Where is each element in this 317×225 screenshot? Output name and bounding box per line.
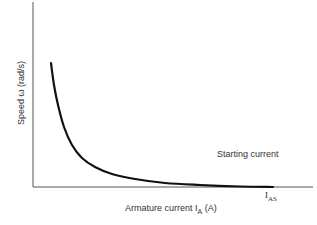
x-axis-label-unit: (A): [202, 203, 217, 213]
x-axis-label: Armature current IA (A): [125, 203, 217, 215]
starting-current-annotation: Starting current: [217, 149, 279, 159]
speed-current-curve: [51, 63, 273, 187]
y-axis-label: Speed ω (rad/s): [16, 61, 26, 125]
ias-label-subscript: AS: [268, 195, 277, 203]
ias-tick-label: IAS: [265, 190, 277, 203]
x-axis-label-main: Armature current I: [125, 203, 198, 213]
